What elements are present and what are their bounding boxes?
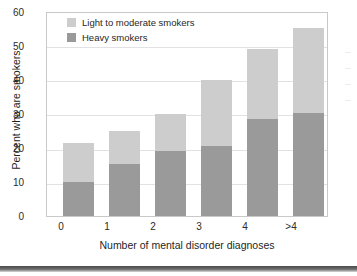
y-axis-title: Percent who are smokers — [10, 30, 22, 190]
bar-segment-heavy-5 — [293, 113, 324, 217]
y-tick-60: 60 — [0, 8, 24, 18]
x-tick-4: 4 — [225, 221, 265, 232]
y-tick-0: 0 — [0, 212, 24, 222]
bar-segment-heavy-2 — [155, 151, 186, 216]
legend-swatch-light-icon — [67, 18, 76, 27]
x-tick-0: 0 — [41, 221, 81, 232]
x-tick-2: 2 — [133, 221, 173, 232]
bar-segment-light-1 — [109, 131, 140, 163]
bar-group-4 — [247, 49, 278, 216]
legend-swatch-heavy-icon — [67, 33, 76, 42]
plot-area: Light to moderate smokers Heavy smokers — [46, 12, 328, 217]
legend-label-light: Light to moderate smokers — [82, 17, 194, 28]
x-axis-title: Number of mental disorder diagnoses — [46, 239, 328, 251]
scan-artifact-mark — [345, 52, 351, 53]
bar-segment-light-2 — [155, 114, 186, 152]
scan-artifact-mark — [345, 68, 351, 69]
bar-group-2 — [155, 114, 186, 217]
bar-segment-light-3 — [201, 80, 232, 146]
bar-segment-light-4 — [247, 49, 278, 119]
x-tick-gt4: >4 — [271, 221, 311, 232]
chart-figure: 60 50 40 30 20 10 0 — [0, 0, 357, 276]
scan-artifact-bottom-band — [0, 266, 357, 272]
x-tick-1: 1 — [87, 221, 127, 232]
bar-segment-heavy-3 — [201, 146, 232, 216]
bar-group-1 — [109, 131, 140, 216]
bar-group-0 — [63, 143, 94, 216]
legend-item-heavy: Heavy smokers — [67, 31, 194, 43]
legend-label-heavy: Heavy smokers — [82, 32, 147, 43]
bar-group-5 — [293, 28, 324, 216]
x-tick-3: 3 — [179, 221, 219, 232]
bar-segment-heavy-4 — [247, 119, 278, 216]
bar-group-3 — [201, 80, 232, 216]
bar-segment-light-5 — [293, 28, 324, 112]
chart-legend: Light to moderate smokers Heavy smokers — [67, 16, 194, 46]
bar-segment-heavy-0 — [63, 182, 94, 216]
bar-segment-light-0 — [63, 143, 94, 182]
legend-item-light: Light to moderate smokers — [67, 16, 194, 28]
scan-artifact-mark — [345, 84, 351, 85]
bar-segment-heavy-1 — [109, 164, 140, 216]
scan-artifact-mark — [345, 100, 351, 101]
